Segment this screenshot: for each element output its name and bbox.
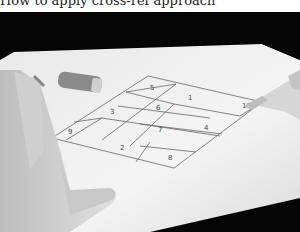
caption-text: How to apply cross-ref approach bbox=[0, 0, 300, 12]
grid-label-5: 5 bbox=[150, 84, 154, 92]
photo: 5 1 3 6 10 7 4 9 2 8 bbox=[0, 12, 300, 232]
grid-label-4: 4 bbox=[204, 124, 209, 132]
photo-illustration: 5 1 3 6 10 7 4 9 2 8 bbox=[0, 12, 300, 232]
grid-label-6: 6 bbox=[156, 104, 161, 112]
grid-label-2: 2 bbox=[120, 144, 124, 152]
grid-label-9: 9 bbox=[68, 128, 72, 136]
grid-label-7: 7 bbox=[158, 126, 162, 134]
grid-label-3: 3 bbox=[110, 108, 114, 116]
grid-label-8: 8 bbox=[168, 154, 172, 162]
grid-label-1: 1 bbox=[188, 94, 192, 102]
